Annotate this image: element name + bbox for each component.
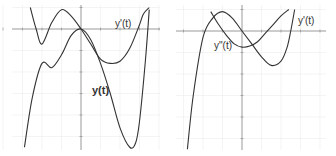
left-label-y-prime: y'(t)	[115, 19, 131, 29]
right-chart: y'(t) y"(t)	[168, 0, 336, 156]
left-plot-area	[0, 0, 168, 156]
right-label-y-double-prime: y"(t)	[214, 41, 232, 51]
curve-y'(t)	[30, 8, 149, 64]
curve-y'(t)	[187, 10, 294, 150]
right-label-y-prime: y'(t)	[298, 16, 314, 26]
left-label-y: y(t)	[92, 85, 109, 96]
left-chart: y'(t) y(t)	[0, 0, 168, 156]
curve-y(t)	[24, 10, 149, 149]
